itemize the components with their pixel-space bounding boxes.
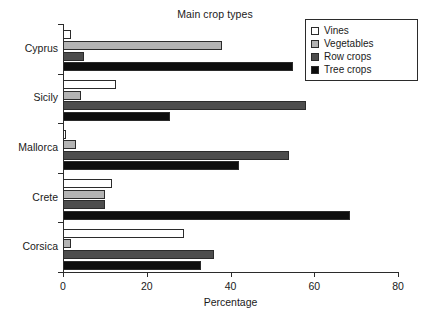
x-axis-tick bbox=[231, 272, 232, 277]
bar-group-corsica bbox=[63, 222, 398, 272]
y-axis-label-mallorca: Mallorca bbox=[0, 141, 58, 153]
bar-vegetables-sicily[interactable] bbox=[63, 91, 81, 100]
x-axis-tick bbox=[314, 272, 315, 277]
legend-swatch-icon bbox=[311, 66, 319, 74]
bar-rowcrops-mallorca[interactable] bbox=[63, 151, 289, 160]
bar-group-crete bbox=[63, 173, 398, 223]
bar-row bbox=[63, 91, 398, 100]
x-axis-tick-label: 80 bbox=[392, 280, 404, 292]
bar-row bbox=[63, 229, 398, 238]
legend-item-rowcrops[interactable]: Row crops bbox=[311, 50, 412, 63]
y-axis-tick bbox=[58, 74, 63, 75]
bar-vines-crete[interactable] bbox=[63, 179, 112, 188]
bar-treecrops-sicily[interactable] bbox=[63, 112, 170, 121]
bar-vines-mallorca[interactable] bbox=[63, 130, 66, 139]
bar-row bbox=[63, 101, 398, 110]
bar-vines-sicily[interactable] bbox=[63, 80, 116, 89]
bar-group-sicily bbox=[63, 74, 398, 124]
x-axis-tick-label: 0 bbox=[60, 280, 66, 292]
bar-row bbox=[63, 261, 398, 270]
bar-treecrops-mallorca[interactable] bbox=[63, 161, 239, 170]
bar-row bbox=[63, 211, 398, 220]
legend-item-vines[interactable]: Vines bbox=[311, 24, 412, 37]
bar-treecrops-crete[interactable] bbox=[63, 211, 350, 220]
bar-row bbox=[63, 161, 398, 170]
legend-swatch-icon bbox=[311, 40, 319, 48]
bar-rowcrops-crete[interactable] bbox=[63, 200, 105, 209]
y-axis-label-cyprus: Cyprus bbox=[0, 42, 58, 54]
legend-item-treecrops[interactable]: Tree crops bbox=[311, 63, 412, 76]
bar-row bbox=[63, 151, 398, 160]
bar-rowcrops-sicily[interactable] bbox=[63, 101, 306, 110]
y-axis-label-sicily: Sicily bbox=[0, 91, 58, 103]
bar-chart: Main crop types CyprusSicilyMallorcaCret… bbox=[0, 0, 430, 317]
y-axis-tick bbox=[58, 173, 63, 174]
legend-label: Vegetables bbox=[324, 38, 374, 50]
bar-vines-cyprus[interactable] bbox=[63, 30, 71, 39]
x-axis-tick-label: 40 bbox=[225, 280, 237, 292]
bar-row bbox=[63, 112, 398, 121]
legend-label: Vines bbox=[324, 25, 349, 37]
x-axis-tick-label: 20 bbox=[141, 280, 153, 292]
bar-treecrops-corsica[interactable] bbox=[63, 261, 201, 270]
bar-vegetables-mallorca[interactable] bbox=[63, 140, 76, 149]
x-axis-tick bbox=[398, 272, 399, 277]
bar-row bbox=[63, 179, 398, 188]
x-axis-tick-label: 60 bbox=[308, 280, 320, 292]
y-axis-tick bbox=[58, 24, 63, 25]
x-axis-tick bbox=[147, 272, 148, 277]
bar-row bbox=[63, 140, 398, 149]
legend-item-vegetables[interactable]: Vegetables bbox=[311, 37, 412, 50]
y-axis-label-crete: Crete bbox=[0, 191, 58, 203]
legend-label: Row crops bbox=[324, 51, 371, 63]
y-axis-label-corsica: Corsica bbox=[0, 240, 58, 252]
chart-legend: VinesVegetablesRow cropsTree crops bbox=[305, 19, 418, 81]
bar-vines-corsica[interactable] bbox=[63, 229, 184, 238]
bar-group-mallorca bbox=[63, 123, 398, 173]
x-axis-tick bbox=[63, 272, 64, 277]
bar-row bbox=[63, 190, 398, 199]
x-axis-title: Percentage bbox=[63, 296, 398, 308]
bar-row bbox=[63, 239, 398, 248]
bar-vegetables-crete[interactable] bbox=[63, 190, 105, 199]
legend-swatch-icon bbox=[311, 53, 319, 61]
bar-row bbox=[63, 130, 398, 139]
bar-treecrops-cyprus[interactable] bbox=[63, 62, 293, 71]
bar-row bbox=[63, 80, 398, 89]
bar-row bbox=[63, 250, 398, 259]
bar-vegetables-cyprus[interactable] bbox=[63, 41, 222, 50]
bar-rowcrops-corsica[interactable] bbox=[63, 250, 214, 259]
legend-swatch-icon bbox=[311, 27, 319, 35]
bar-vegetables-corsica[interactable] bbox=[63, 239, 71, 248]
y-axis-tick bbox=[58, 123, 63, 124]
y-axis-tick bbox=[58, 222, 63, 223]
bar-rowcrops-cyprus[interactable] bbox=[63, 52, 84, 61]
legend-label: Tree crops bbox=[324, 64, 371, 76]
bar-row bbox=[63, 200, 398, 209]
